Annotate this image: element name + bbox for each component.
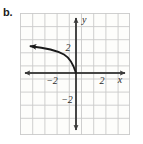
plot-background (20, 13, 130, 135)
y-axis-name: y (81, 14, 87, 25)
x-tick-label-negative-2: −2 (46, 75, 58, 86)
graph-svg: −2 2 2 −2 y x (20, 13, 130, 135)
x-axis-name: x (117, 74, 123, 85)
y-tick-label-negative-2: −2 (61, 94, 73, 105)
figure-screenshot: b. (0, 0, 143, 144)
coordinate-plane: −2 2 2 −2 y x (20, 13, 130, 135)
x-tick-label-positive-2: 2 (100, 75, 105, 86)
part-label: b. (3, 7, 12, 18)
y-tick-label-positive-2: 2 (66, 42, 71, 53)
